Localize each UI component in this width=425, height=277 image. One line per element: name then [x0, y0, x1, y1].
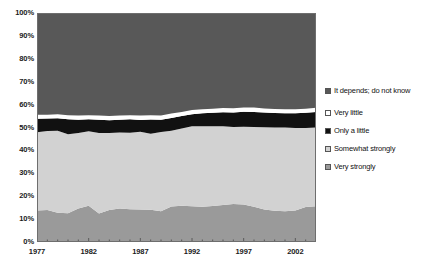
legend-label: It depends; do not know: [334, 86, 423, 96]
x-tick-label: 1982: [69, 247, 109, 256]
area-band: [37, 13, 316, 116]
y-tick-label: 70%: [0, 78, 34, 86]
y-tick-label: 50%: [0, 124, 34, 132]
legend-item[interactable]: Very strongly: [325, 162, 423, 172]
x-tick-label: 1987: [120, 247, 160, 256]
y-tick-label: 10%: [0, 215, 34, 223]
area-layers: [37, 13, 316, 242]
x-tick-label: 1992: [172, 247, 212, 256]
legend-swatch-icon: [325, 164, 331, 170]
legend-item[interactable]: Only a little: [325, 126, 423, 136]
y-axis: 0%10%20%30%40%50%60%70%80%90%100%: [0, 0, 34, 277]
y-tick-label: 60%: [0, 101, 34, 109]
area-band: [37, 126, 316, 213]
y-tick-label: 0%: [0, 238, 34, 246]
legend-item[interactable]: It depends; do not know: [325, 86, 423, 96]
y-tick-label: 30%: [0, 169, 34, 177]
legend-label: Very little: [334, 108, 423, 118]
legend-swatch-icon: [325, 88, 331, 94]
x-axis: 197719821987199219972002: [0, 247, 425, 261]
y-tick-label: 20%: [0, 192, 34, 200]
plot-svg: [37, 13, 316, 242]
x-tick-label: 2002: [275, 247, 315, 256]
legend-label: Very strongly: [334, 162, 423, 172]
legend-swatch-icon: [325, 146, 331, 152]
legend-swatch-icon: [325, 128, 331, 134]
legend-label: Only a little: [334, 126, 423, 136]
legend-label: Somewhat strongly: [334, 144, 423, 154]
legend-item[interactable]: Very little: [325, 108, 423, 118]
legend-item[interactable]: Somewhat strongly: [325, 144, 423, 154]
legend-swatch-icon: [325, 110, 331, 116]
x-tick-label: 1977: [17, 247, 57, 256]
x-tick-label: 1997: [224, 247, 264, 256]
y-tick-label: 90%: [0, 32, 34, 40]
y-tick-label: 100%: [0, 9, 34, 17]
y-tick-label: 40%: [0, 146, 34, 154]
y-tick-label: 80%: [0, 55, 34, 63]
stacked-area-chart: 0%10%20%30%40%50%60%70%80%90%100% 197719…: [0, 0, 425, 277]
plot-area: [37, 13, 316, 242]
